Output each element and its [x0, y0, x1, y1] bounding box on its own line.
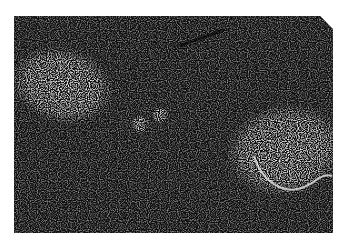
micrograph-texture	[14, 16, 333, 233]
micrograph-image	[14, 16, 333, 233]
